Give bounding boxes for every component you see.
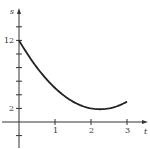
x-axis-label: t [144, 127, 148, 136]
chart: s t 12 2 1 2 3 [0, 0, 150, 149]
x-tick-label-3: 3 [125, 126, 130, 135]
x-tick-label-1: 1 [53, 126, 58, 135]
curve-s-of-t [19, 40, 127, 109]
y-axis-label: s [10, 7, 14, 16]
x-axis-arrow-icon [142, 120, 148, 124]
y-axis-arrow-icon [17, 8, 21, 14]
y-tick-label-12: 12 [4, 36, 14, 45]
y-tick-label-2: 2 [9, 104, 14, 113]
x-tick-label-2: 2 [89, 126, 94, 135]
